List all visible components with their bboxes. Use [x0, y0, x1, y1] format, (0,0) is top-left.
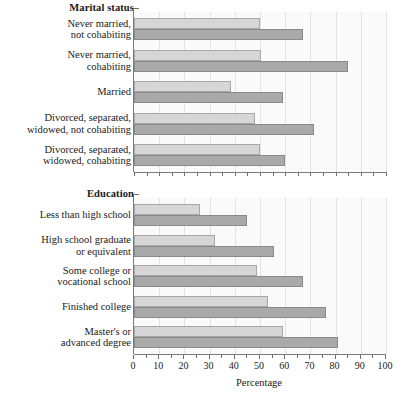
x-tick-100 — [385, 355, 386, 359]
bar-education-2-light — [134, 265, 257, 276]
marital-x-tick-5 — [147, 172, 148, 176]
x-minor-tick-45 — [246, 355, 247, 358]
marital-x-tick-50 — [260, 172, 261, 176]
bar-education-2-dark — [134, 276, 303, 287]
category-label-education-3: Finished college — [0, 301, 131, 313]
marital-x-tick-85 — [348, 172, 349, 176]
bar-marital-3-light — [134, 113, 255, 124]
gridline-marital-90 — [361, 12, 362, 172]
marital-x-tick-75 — [323, 172, 324, 176]
x-minor-tick-95 — [372, 355, 373, 358]
category-label-marital-1: Never married, cohabiting — [0, 49, 131, 72]
category-label-education-4: Master's or advanced degree — [0, 326, 131, 349]
x-tick-70 — [309, 355, 310, 359]
marital-x-tick-80 — [336, 172, 337, 176]
category-label-marital-0: Never married, not cohabiting — [0, 18, 131, 41]
x-tick-0 — [133, 355, 134, 359]
bar-marital-4-light — [134, 144, 260, 155]
bar-marital-2-dark — [134, 92, 283, 103]
x-tick-50 — [259, 355, 260, 359]
x-tick-label-0: 0 — [131, 360, 136, 371]
x-minor-tick-15 — [171, 355, 172, 358]
gridline-marital-100 — [386, 12, 387, 172]
gridline-education-70 — [310, 198, 311, 354]
category-label-education-2: Some college or vocational school — [0, 265, 131, 288]
x-tick-label-80: 80 — [330, 360, 340, 371]
marital-x-tick-15 — [172, 172, 173, 176]
bar-education-3-light — [134, 296, 268, 307]
bar-education-1-light — [134, 235, 215, 246]
bar-marital-0-light — [134, 18, 260, 29]
x-minor-tick-5 — [146, 355, 147, 358]
marital-x-tick-100 — [386, 172, 387, 176]
x-tick-label-20: 20 — [178, 360, 188, 371]
marital-x-tick-45 — [247, 172, 248, 176]
x-tick-label-100: 100 — [378, 360, 393, 371]
gridline-education-100 — [386, 198, 387, 354]
bar-marital-1-dark — [134, 61, 348, 72]
x-tick-label-60: 60 — [279, 360, 289, 371]
x-tick-90 — [360, 355, 361, 359]
x-minor-tick-55 — [272, 355, 273, 358]
x-minor-tick-25 — [196, 355, 197, 358]
x-tick-30 — [209, 355, 210, 359]
marital-x-tick-40 — [235, 172, 236, 176]
x-minor-tick-35 — [221, 355, 222, 358]
x-tick-label-70: 70 — [304, 360, 314, 371]
bar-education-0-dark — [134, 215, 247, 226]
marital-x-tick-0 — [134, 172, 135, 176]
x-tick-label-10: 10 — [153, 360, 163, 371]
x-tick-40 — [234, 355, 235, 359]
x-tick-label-30: 30 — [204, 360, 214, 371]
gridline-marital-70 — [310, 12, 311, 172]
panel-marital-status: Marital status Never married, not cohabi… — [0, 0, 403, 182]
bar-education-4-dark — [134, 337, 338, 348]
axis-line-education — [134, 354, 386, 355]
marital-x-tick-35 — [222, 172, 223, 176]
bar-marital-1-light — [134, 50, 261, 61]
x-tick-60 — [284, 355, 285, 359]
gridline-education-80 — [336, 198, 337, 354]
marital-x-tick-95 — [373, 172, 374, 176]
marital-x-tick-20 — [184, 172, 185, 176]
x-tick-label-40: 40 — [229, 360, 239, 371]
category-label-marital-2: Married — [0, 86, 131, 98]
bar-education-0-light — [134, 204, 200, 215]
category-label-education-0: Less than high school — [0, 209, 131, 221]
x-minor-tick-75 — [322, 355, 323, 358]
marital-x-tick-25 — [197, 172, 198, 176]
marital-x-tick-55 — [273, 172, 274, 176]
gridline-education-90 — [361, 198, 362, 354]
bar-education-1-dark — [134, 246, 274, 257]
marital-x-tick-60 — [285, 172, 286, 176]
marital-x-tick-90 — [361, 172, 362, 176]
x-tick-label-90: 90 — [355, 360, 365, 371]
panel-title-education: Education — [87, 188, 134, 199]
bar-marital-0-dark — [134, 29, 303, 40]
x-axis-title: Percentage — [133, 377, 385, 388]
bar-education-3-dark — [134, 307, 326, 318]
x-tick-80 — [335, 355, 336, 359]
x-tick-20 — [183, 355, 184, 359]
bar-education-4-light — [134, 326, 283, 337]
category-label-education-1: High school graduate or equivalent — [0, 234, 131, 257]
x-minor-tick-85 — [347, 355, 348, 358]
marital-x-tick-30 — [210, 172, 211, 176]
panel-title-marital-status: Marital status — [69, 2, 134, 13]
category-label-marital-4: Divorced, separated, widowed, cohabiting — [0, 144, 131, 167]
plot-area-education — [133, 198, 386, 354]
bar-marital-2-light — [134, 81, 231, 92]
x-tick-label-50: 50 — [254, 360, 264, 371]
panel-education: Education 0102030405060708090100 Percent… — [0, 186, 403, 399]
plot-area-marital-status — [133, 12, 386, 172]
category-label-marital-3: Divorced, separated, widowed, not cohabi… — [0, 112, 131, 135]
x-minor-tick-65 — [297, 355, 298, 358]
marital-x-tick-70 — [310, 172, 311, 176]
bar-marital-4-dark — [134, 155, 285, 166]
marital-x-tick-10 — [159, 172, 160, 176]
x-tick-10 — [158, 355, 159, 359]
gridline-marital-80 — [336, 12, 337, 172]
bar-marital-3-dark — [134, 124, 314, 135]
marital-x-tick-65 — [298, 172, 299, 176]
chart-figure: Marital status Never married, not cohabi… — [0, 0, 403, 399]
